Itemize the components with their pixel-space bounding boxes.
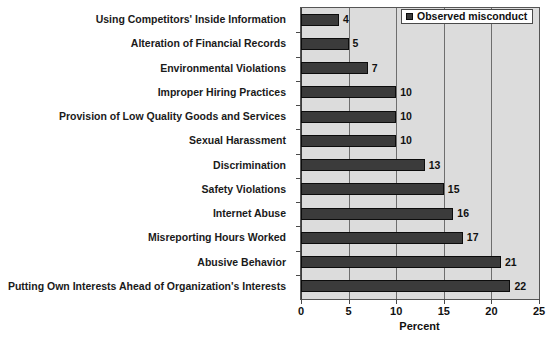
- x-axis-tick: [491, 299, 492, 304]
- x-axis-tick: [444, 299, 445, 304]
- bar-row: 21: [301, 251, 539, 275]
- plot-area: 457101010131516172122: [300, 7, 540, 300]
- bar[interactable]: [301, 256, 501, 268]
- bar-row: 10: [301, 129, 539, 153]
- bar-row: 10: [301, 81, 539, 105]
- x-axis-tick-label: 15: [438, 305, 450, 317]
- chart-legend: Observed misconduct: [401, 9, 533, 24]
- x-axis-tick-label: 20: [485, 305, 497, 317]
- bar-chart: Using Competitors' Inside InformationAlt…: [0, 0, 550, 338]
- category-label: Misreporting Hours Worked: [148, 225, 286, 249]
- bar-row: 13: [301, 154, 539, 178]
- legend-swatch-icon: [406, 13, 413, 20]
- bar[interactable]: [301, 208, 453, 220]
- bar-value-label: 7: [372, 59, 378, 77]
- x-axis-tick-label: 0: [298, 305, 304, 317]
- category-label: Using Competitors' Inside Information: [96, 7, 286, 31]
- bar-value-label: 13: [429, 156, 441, 174]
- x-axis-tick: [539, 299, 540, 304]
- bar-row: 5: [301, 32, 539, 56]
- bar-row: 7: [301, 57, 539, 81]
- bar-row: 22: [301, 275, 539, 299]
- bar-value-label: 16: [457, 204, 469, 222]
- bar[interactable]: [301, 280, 510, 292]
- bar[interactable]: [301, 232, 463, 244]
- bar[interactable]: [301, 86, 396, 98]
- x-axis-tick: [396, 299, 397, 304]
- category-axis: Using Competitors' Inside InformationAlt…: [0, 7, 293, 298]
- bar-value-label: 4: [343, 10, 349, 28]
- legend-label: Observed misconduct: [417, 11, 527, 22]
- category-label: Putting Own Interests Ahead of Organizat…: [8, 274, 286, 298]
- bar-value-label: 10: [400, 131, 412, 149]
- x-axis-title: Percent: [300, 320, 539, 332]
- bar-row: 17: [301, 226, 539, 250]
- category-label: Internet Abuse: [213, 201, 286, 225]
- bar-value-label: 10: [400, 107, 412, 125]
- category-label: Discrimination: [213, 153, 286, 177]
- bar[interactable]: [301, 14, 339, 26]
- category-label: Improper Hiring Practices: [158, 80, 286, 104]
- bar-value-label: 10: [400, 83, 412, 101]
- x-axis-tick-label: 10: [390, 305, 402, 317]
- bar[interactable]: [301, 111, 396, 123]
- bar-value-label: 15: [448, 180, 460, 198]
- bar-row: 10: [301, 105, 539, 129]
- category-label: Environmental Violations: [160, 56, 286, 80]
- bar-value-label: 22: [514, 277, 526, 295]
- bar[interactable]: [301, 135, 396, 147]
- bar-value-label: 17: [467, 228, 479, 246]
- x-axis: Percent 0510152025: [300, 299, 539, 338]
- bar-row: 16: [301, 202, 539, 226]
- x-axis-tick: [349, 299, 350, 304]
- bar[interactable]: [301, 38, 349, 50]
- bar-row: 15: [301, 178, 539, 202]
- bar[interactable]: [301, 159, 425, 171]
- bar-value-label: 21: [505, 253, 517, 271]
- category-label: Safety Violations: [202, 177, 286, 201]
- x-axis-tick: [301, 299, 302, 304]
- category-label: Provision of Low Quality Goods and Servi…: [59, 104, 286, 128]
- bar-value-label: 5: [353, 34, 359, 52]
- x-axis-tick-label: 5: [346, 305, 352, 317]
- category-label: Abusive Behavior: [197, 250, 286, 274]
- category-label: Alteration of Financial Records: [131, 31, 286, 55]
- bar[interactable]: [301, 183, 444, 195]
- x-axis-tick-label: 25: [533, 305, 545, 317]
- category-label: Sexual Harassment: [189, 128, 286, 152]
- bar[interactable]: [301, 62, 368, 74]
